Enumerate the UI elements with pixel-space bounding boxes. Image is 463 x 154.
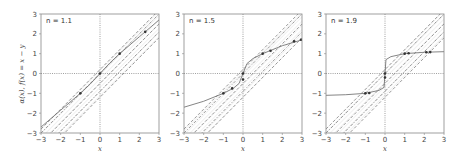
y-tick-label: −1 [170,90,180,98]
data-marker [407,52,410,55]
x-tick-label: 3 [442,136,446,144]
x-axis-label: x [98,145,102,153]
data-marker [242,78,245,81]
x-tick-label: −3 [321,136,331,144]
y-tick-label: −3 [27,130,37,138]
x-tick-label: 0 [241,136,245,144]
x-tick-label: 3 [300,136,304,144]
chart-panel-2: −3−2−10123−3−2−10123xn = 1.5 [170,10,305,154]
y-tick-label: −2 [312,110,322,118]
data-marker [222,92,225,95]
data-marker [293,40,296,43]
y-tick-label: 2 [318,30,322,38]
y-tick-label: 1 [33,50,37,58]
x-tick-label: −2 [199,136,209,144]
data-marker [242,72,245,75]
n-annotation: n = 1.5 [189,17,215,25]
y-tick-label: −1 [27,90,37,98]
data-marker [384,76,387,79]
data-marker [425,51,428,54]
data-marker [118,52,121,55]
y-tick-label: −2 [27,110,37,118]
data-marker [364,92,367,95]
y-tick-label: −3 [312,130,322,138]
y-tick-label: 1 [176,50,180,58]
data-marker [261,52,264,55]
data-marker [269,49,272,52]
x-tick-label: 2 [137,136,141,144]
y-axis-label: α(x), f(x) = x − y [18,43,26,103]
data-marker [144,31,147,34]
y-tick-label: 0 [176,70,180,78]
data-marker [403,52,406,55]
n-annotation: n = 1.1 [46,17,72,25]
x-axis-label: x [383,145,387,153]
y-tick-label: −3 [170,130,180,138]
data-marker [368,92,371,95]
y-tick-label: 2 [176,30,180,38]
x-tick-label: 3 [157,136,161,144]
data-marker [429,51,432,54]
y-tick-label: 3 [176,11,180,19]
x-tick-label: 1 [260,136,264,144]
data-marker [79,92,82,95]
x-tick-label: −2 [56,136,66,144]
x-tick-label: 0 [98,136,102,144]
x-tick-label: −1 [218,136,228,144]
x-tick-label: 0 [383,136,387,144]
y-tick-label: 0 [33,70,37,78]
y-tick-label: −2 [170,110,180,118]
data-marker [231,87,234,90]
x-tick-label: 2 [422,136,426,144]
chart-panel-3: −3−2−10123−3−2−10123xn = 1.9 [312,10,447,154]
y-tick-label: 3 [318,11,322,19]
figure: α(x), f(x) = x − y −3−2−10123−3−2−10123x… [0,0,463,154]
x-tick-label: −3 [36,136,46,144]
x-tick-label: 2 [280,136,284,144]
y-tick-label: 1 [318,50,322,58]
data-marker [384,72,387,75]
data-marker [99,72,102,75]
y-tick-label: 0 [318,70,322,78]
x-tick-label: −2 [341,136,351,144]
x-tick-label: −1 [75,136,85,144]
chart-panel-1: −3−2−10123−3−2−10123xn = 1.1 [27,10,162,154]
y-tick-label: 3 [33,11,37,19]
y-tick-label: −1 [312,90,322,98]
x-axis-label: x [241,145,245,153]
y-tick-label: 2 [33,30,37,38]
n-annotation: n = 1.9 [331,17,357,25]
x-tick-label: 1 [117,136,121,144]
x-tick-label: 1 [402,136,406,144]
x-tick-label: −3 [179,136,189,144]
x-tick-label: −1 [360,136,370,144]
